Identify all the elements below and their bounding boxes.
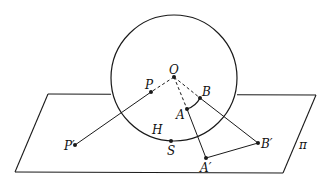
arc-ab [187,98,200,109]
point-a [185,107,189,111]
label-a: A [175,108,185,122]
plane-edge-left [15,94,48,172]
point-s [169,139,173,143]
segment-o-p [151,77,174,92]
label-o: O [169,63,179,77]
labels: OPBAP′SB′A′Hπ [63,63,308,175]
segment-ap-bp [206,143,258,158]
label-s: S [167,144,175,158]
plane-edge-right [283,95,316,173]
point-b-prime [256,141,260,145]
diagram-canvas: OPBAP′SB′A′Hπ [0,0,330,188]
stereographic-projection-diagram: OPBAP′SB′A′Hπ [0,0,330,188]
label-pi: π [298,138,308,152]
segment-b-bp [200,98,258,143]
label-b: B [201,85,211,99]
arc-a-b [187,98,200,109]
label-b-prime: B′ [260,137,273,151]
label-p-prime: P′ [63,139,75,153]
plane-pi [15,94,316,173]
segment-p-pp [75,92,151,145]
label-p: P [144,78,154,92]
label-a-prime: A′ [199,161,212,175]
plane-edge-bottom [15,172,283,173]
label-h: H [151,123,163,137]
point-a-prime [204,156,208,160]
